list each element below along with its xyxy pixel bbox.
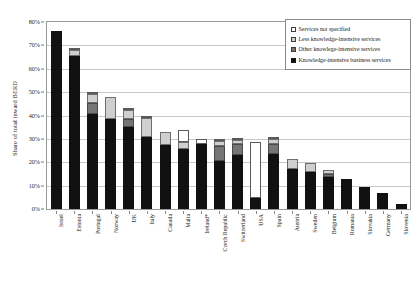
x-tick-mark: [238, 211, 239, 214]
legend-label: Knowledge-intensive business services: [299, 57, 391, 64]
legend-label: Less knowledge-intensive services: [299, 36, 381, 43]
x-label-cell: Czech Republic: [210, 212, 228, 293]
bar-column: [83, 22, 101, 209]
bar-segment: [123, 127, 134, 209]
x-tick-label: Germany: [385, 214, 391, 236]
x-tick-mark: [256, 211, 257, 214]
y-tick-mark: [41, 138, 44, 139]
y-tick-mark: [41, 68, 44, 69]
y-axis-ticks: 0%10%20%30%40%50%60%70%80%: [0, 21, 44, 210]
legend-label: Services not specified: [299, 26, 351, 33]
bar-stack: [160, 132, 171, 209]
bar-segment: [396, 204, 407, 209]
bar-segment: [268, 144, 279, 155]
bar-segment: [287, 159, 298, 170]
x-tick-mark: [92, 211, 93, 214]
x-tick-mark: [383, 211, 384, 214]
y-tick-label: 0%: [32, 206, 40, 212]
x-tick-label: Italy: [149, 214, 155, 225]
x-tick-label: Austria: [294, 214, 300, 231]
x-label-cell: Canada: [156, 212, 174, 293]
x-tick-mark: [165, 211, 166, 214]
legend-item[interactable]: Less knowledge-intensive services: [291, 36, 406, 43]
x-tick-mark: [328, 211, 329, 214]
bar-segment: [377, 193, 388, 209]
y-tick-label: 70%: [29, 42, 40, 48]
bar-stack: [51, 31, 62, 209]
x-tick-mark: [56, 211, 57, 214]
bar-stack: [396, 204, 407, 209]
bar-segment: [305, 172, 316, 209]
bar-chart: Share of total inward BERD 0%10%20%30%40…: [0, 0, 419, 293]
x-label-cell: UK: [120, 212, 138, 293]
x-tick-label: USA: [258, 214, 264, 226]
x-axis-labels: IsraelEstoniaPortugalNorwayUKItalyCanada…: [47, 212, 410, 293]
x-label-cell: Sweden: [301, 212, 319, 293]
legend-item[interactable]: Knowledge-intensive business services: [291, 57, 406, 64]
x-tick-label: Estonia: [76, 214, 82, 232]
legend-item[interactable]: Other knowlege-intensive services: [291, 46, 406, 53]
legend-swatch-icon: [291, 58, 296, 63]
x-tick-label: Switzerland: [240, 214, 246, 242]
bar-column: [210, 22, 228, 209]
y-tick-label: 20%: [29, 159, 40, 165]
x-tick-label: Canada: [167, 214, 173, 232]
bar-stack: [268, 137, 279, 209]
bar-segment: [87, 114, 98, 209]
x-tick-label: Portugal: [95, 214, 101, 234]
bar-segment: [69, 56, 80, 209]
bar-segment: [214, 161, 225, 209]
bar-segment: [141, 118, 152, 137]
bar-segment: [323, 177, 334, 209]
bar-stack: [123, 108, 134, 209]
bar-stack: [141, 116, 152, 209]
x-tick-mark: [292, 211, 293, 214]
legend-swatch-icon: [291, 27, 296, 32]
bar-stack: [377, 193, 388, 209]
bar-segment: [105, 97, 116, 119]
x-label-cell: Estonia: [65, 212, 83, 293]
bar-stack: [341, 179, 352, 209]
x-tick-label: Romania: [349, 214, 355, 235]
bar-segment: [105, 119, 116, 209]
bar-stack: [232, 138, 243, 209]
x-label-cell: USA: [247, 212, 265, 293]
y-tick-label: 30%: [29, 136, 40, 142]
bar-stack: [214, 139, 225, 209]
x-tick-label: Czech Republic: [222, 214, 228, 251]
x-label-cell: Portugal: [83, 212, 101, 293]
bar-column: [265, 22, 283, 209]
x-label-cell: Norway: [101, 212, 119, 293]
bar-stack: [323, 170, 334, 209]
bar-segment: [160, 145, 171, 209]
legend-item[interactable]: Services not specified: [291, 26, 406, 33]
bar-segment: [268, 154, 279, 209]
x-tick-label: Belgium: [331, 214, 337, 234]
x-tick-label: Sweden: [312, 214, 318, 233]
bar-segment: [250, 142, 261, 198]
x-tick-label: Israel: [58, 214, 64, 227]
bar-column: [65, 22, 83, 209]
x-tick-mark: [347, 211, 348, 214]
bar-segment: [141, 137, 152, 209]
x-tick-mark: [129, 211, 130, 214]
x-tick-label: Malta: [185, 214, 191, 228]
x-tick-label: UK: [131, 214, 137, 223]
x-label-cell: Slovakia: [356, 212, 374, 293]
bar-segment: [214, 146, 225, 161]
bar-segment: [123, 110, 134, 119]
bar-segment: [178, 130, 189, 143]
x-label-cell: Israel: [47, 212, 65, 293]
x-label-cell: Ireland*: [192, 212, 210, 293]
bar-segment: [232, 155, 243, 209]
bar-column: [120, 22, 138, 209]
bar-stack: [287, 159, 298, 209]
bar-segment: [51, 31, 62, 209]
y-tick-mark: [41, 92, 44, 93]
bar-segment: [87, 103, 98, 115]
bar-segment: [359, 187, 370, 209]
x-label-cell: Austria: [283, 212, 301, 293]
legend: Services not specifiedLess knowledge-int…: [285, 19, 411, 70]
bar-segment: [178, 149, 189, 209]
x-label-cell: Romania: [338, 212, 356, 293]
